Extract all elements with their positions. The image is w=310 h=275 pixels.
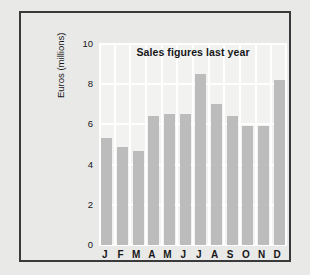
x-axis-tick-label: A bbox=[144, 249, 160, 260]
x-axis-tick-label: D bbox=[269, 249, 285, 260]
y-axis-ticks: 0246810 bbox=[99, 44, 287, 245]
y-axis-title: Euros (millions) bbox=[55, 0, 66, 98]
x-axis-tick-label: F bbox=[113, 249, 129, 260]
x-axis-tick-label: N bbox=[254, 249, 270, 260]
x-axis-tick-label: M bbox=[128, 249, 144, 260]
x-axis-tick-label: M bbox=[160, 249, 176, 260]
chart-frame: 0246810 Euros (millions) Sales figures l… bbox=[19, 11, 291, 262]
chart-title: Sales figures last year bbox=[99, 46, 287, 58]
x-axis-tick-label: J bbox=[97, 249, 113, 260]
x-axis-tick-label: J bbox=[191, 249, 207, 260]
x-axis-tick-label: O bbox=[238, 249, 254, 260]
y-axis-title-wrap: Euros (millions) bbox=[65, 44, 85, 245]
x-axis-tick-label: J bbox=[175, 249, 191, 260]
x-axis-tick-label: S bbox=[222, 249, 238, 260]
chart-page: 0246810 Euros (millions) Sales figures l… bbox=[0, 0, 310, 275]
x-axis-tick-label: A bbox=[207, 249, 223, 260]
